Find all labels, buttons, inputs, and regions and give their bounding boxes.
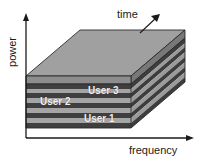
time-axis-label: time [117,8,138,20]
frequency-axis-label: frequency [129,144,177,156]
arrow-right-icon [186,135,194,141]
resource-stack-figure: power time frequency User 3 User 2 User … [0,0,202,161]
arrow-up-icon [23,13,29,21]
frequency-axis [26,135,194,141]
stack-slab-9-front [26,123,131,128]
stack-slab-8-front [26,118,131,123]
layer-label-user-3: User 3 [88,85,119,96]
top-slab-front-face [26,76,131,84]
stack-slab-6-front [26,108,131,113]
stack-slab-7-front [26,113,131,118]
layer-label-user-2: User 2 [40,96,71,107]
stack-diagram-canvas [0,0,202,161]
power-axis-label: power [6,28,18,76]
layer-label-user-1: User 1 [84,113,115,124]
